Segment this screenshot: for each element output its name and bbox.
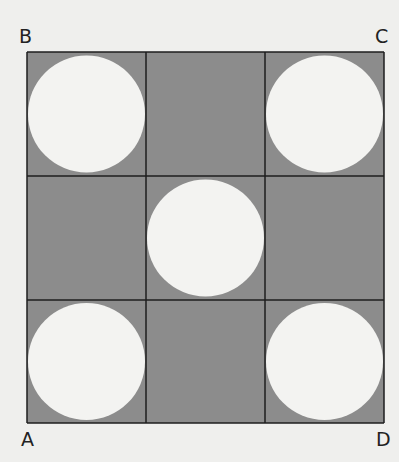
white-circle: [266, 303, 383, 420]
white-circle: [28, 303, 145, 420]
white-circle: [266, 56, 383, 173]
corner-label-d: D: [376, 430, 391, 449]
corner-label-c: C: [375, 27, 388, 46]
grid-cell: [265, 176, 384, 300]
white-circle: [147, 180, 264, 297]
corner-label-a: A: [21, 430, 34, 449]
grid-cell: [146, 52, 265, 176]
grid-diagram: [0, 0, 399, 462]
grid-cell: [146, 300, 265, 423]
corner-label-b: B: [19, 27, 32, 46]
white-circle: [28, 56, 145, 173]
grid-cell: [27, 176, 146, 300]
